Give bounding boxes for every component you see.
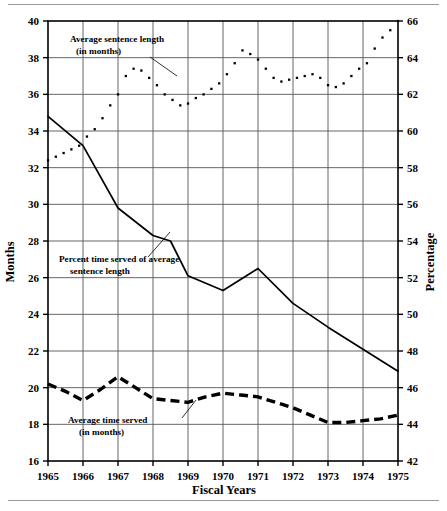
x-tick-label-1965: 1965 [37, 470, 60, 482]
left-tick-label: 24 [28, 308, 40, 320]
x-tick-label-1967: 1967 [107, 470, 130, 482]
left-tick-label: 16 [28, 455, 40, 467]
left-tick-label: 34 [28, 125, 40, 137]
annotation-time-served-line2: (in months) [79, 427, 124, 437]
left-tick-label: 22 [28, 345, 40, 357]
right-tick-label: 50 [407, 308, 419, 320]
right-tick-label: 66 [407, 15, 419, 27]
x-tick-label-1975: 1975 [387, 470, 410, 482]
line-chart: 16182022242628303234363840 4244464850525… [0, 0, 447, 511]
annotation-percent-served-line1: Percent time served of average [59, 254, 179, 264]
x-tick-label-1974: 1974 [352, 470, 375, 482]
right-axis-tick-labels: 42444648505254565860626466 [407, 15, 419, 467]
annotation-leader-lines [148, 57, 196, 418]
x-tick-label-1968: 1968 [142, 470, 165, 482]
left-tick-label: 30 [28, 198, 40, 210]
right-tick-label: 46 [407, 382, 419, 394]
right-tick-label: 42 [407, 455, 419, 467]
x-tick-label-1966: 1966 [72, 470, 95, 482]
right-tick-label: 54 [407, 235, 419, 247]
right-tick-label: 60 [407, 125, 419, 137]
annotation-time-served-line1: Average time served [68, 415, 147, 425]
x-tick-label-1973: 1973 [317, 470, 340, 482]
left-tick-label: 26 [28, 272, 40, 284]
right-tick-label: 48 [407, 345, 419, 357]
right-tick-label: 62 [407, 88, 419, 100]
x-axis-tick-labels: 1965196619671968196919701971197219731974… [37, 470, 410, 482]
left-axis-tick-labels: 16182022242628303234363840 [28, 15, 40, 467]
right-tick-label: 52 [407, 272, 419, 284]
x-tick-label-1970: 1970 [212, 470, 235, 482]
left-axis-title: Months [3, 241, 17, 282]
x-tick-label-1971: 1971 [247, 470, 269, 482]
annotation-sentence-length-line1: Average sentence length [70, 34, 164, 44]
right-tick-label: 56 [407, 198, 419, 210]
annotation-sentence-length-line2: (in months) [76, 46, 121, 56]
left-tick-label: 20 [28, 382, 40, 394]
left-tick-label: 36 [28, 88, 40, 100]
x-tick-label-1972: 1972 [282, 470, 305, 482]
x-axis-title: Fiscal Years [192, 483, 256, 497]
right-tick-label: 44 [407, 418, 419, 430]
left-tick-label: 40 [28, 15, 40, 27]
annotation-percent-served-line2: sentence length [70, 266, 130, 276]
right-axis-title: Percentage [423, 232, 437, 291]
figure-container: 16182022242628303234363840 4244464850525… [0, 0, 447, 511]
left-tick-label: 32 [28, 162, 40, 174]
x-tick-label-1969: 1969 [177, 470, 200, 482]
left-tick-label: 38 [28, 52, 40, 64]
left-tick-label: 18 [28, 418, 40, 430]
right-tick-label: 58 [407, 162, 419, 174]
right-tick-label: 64 [407, 52, 419, 64]
gridlines [48, 21, 398, 461]
leader-line-1 [150, 57, 177, 76]
left-tick-label: 28 [28, 235, 40, 247]
